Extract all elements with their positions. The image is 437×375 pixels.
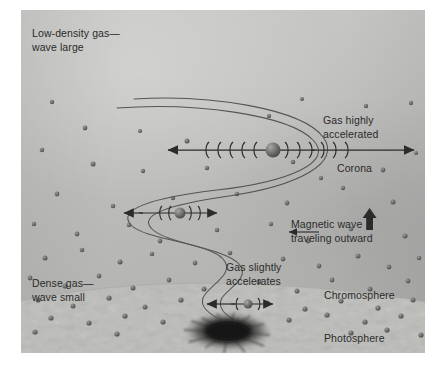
label-magnetic-wave: Magnetic wave traveling outward [291,218,373,245]
label-gas-highly-accelerated: Gas highly accelerated [323,114,378,141]
corona-gas-parcel [266,143,281,158]
label-photosphere: Photosphere [324,332,385,346]
label-corona: Corona [337,162,372,176]
label-chromosphere: Chromosphere [324,289,395,303]
sunspot [184,313,272,353]
label-dense-gas: Dense gas— wave small [32,277,94,304]
figure-canvas: Low-density gas— wave large Gas highly a… [0,0,437,375]
label-gas-slightly-accelerates: Gas slightly accelerates [226,261,281,288]
label-low-density-gas: Low-density gas— wave large [32,27,120,54]
chromosphere-lower-oscillation [207,298,273,310]
magnetic-field-lines [117,98,328,319]
low-gas-parcel [244,300,253,309]
mid-gas-parcel [175,208,186,219]
corona-oscillation [168,142,414,158]
illustration-panel: Low-density gas— wave large Gas highly a… [21,10,425,353]
field-line-outer [117,107,319,318]
